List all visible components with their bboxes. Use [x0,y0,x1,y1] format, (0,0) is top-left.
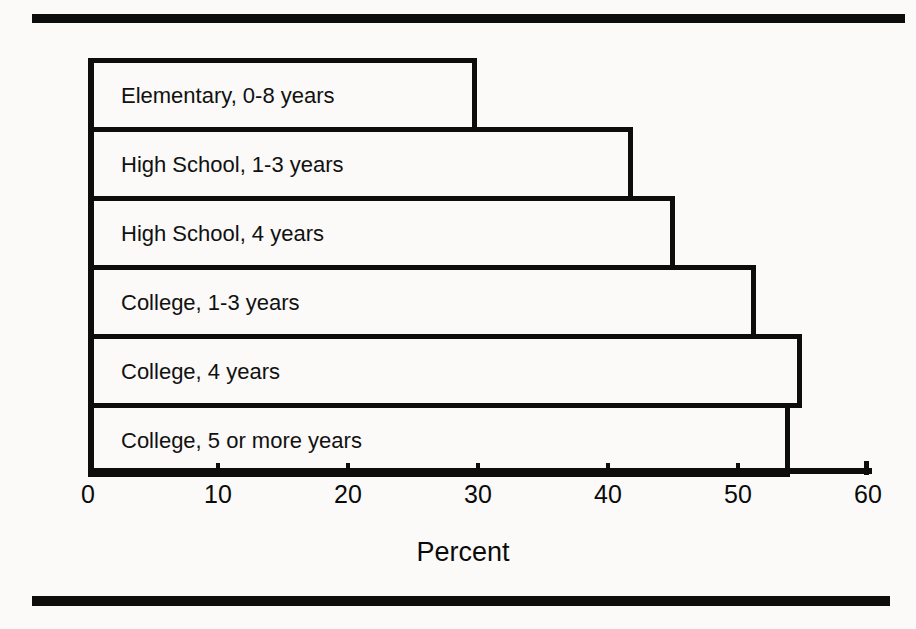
x-axis-title: Percent [0,537,916,568]
x-axis-tick [736,463,740,471]
x-axis-end-cap [864,461,869,475]
x-axis-tick [606,463,610,471]
x-axis-tick-label: 10 [188,481,248,509]
bar-label: High School, 4 years [121,223,324,245]
x-axis-end-cap [88,461,93,475]
bottom-rule-divider [32,596,890,606]
bar-label: College, 5 or more years [121,430,362,452]
x-axis-tick-label: 0 [58,481,118,509]
x-axis-line [88,468,872,474]
x-axis-tick-label: 60 [838,481,898,509]
x-axis-title-text: Percent [406,537,509,567]
bar-label: College, 4 years [121,361,280,383]
bar-label: College, 1-3 years [121,292,300,314]
bar-label: High School, 1-3 years [121,154,344,176]
x-axis-tick [476,463,480,471]
x-axis-tick-label: 40 [578,481,638,509]
x-axis-tick-label: 20 [318,481,378,509]
x-axis-tick-label: 30 [448,481,508,509]
x-axis-tick [346,463,350,471]
x-axis-tick-label: 50 [708,481,768,509]
chart-figure: Highest grade completed Elementary, 0-8 … [0,0,916,629]
top-rule-divider [32,14,905,23]
bar-label: Elementary, 0-8 years [121,85,335,107]
plot-area: Elementary, 0-8 yearsHigh School, 1-3 ye… [88,58,878,472]
x-axis-tick [216,463,220,471]
